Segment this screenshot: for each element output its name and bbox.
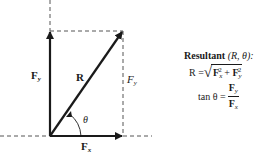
- tan-theta-formula: tan θ = Fy Fx: [198, 82, 239, 111]
- r-vector-label: R: [76, 72, 84, 83]
- theta-label: θ: [83, 115, 88, 125]
- resultant-title: Resultant (R, θ):: [184, 50, 254, 61]
- fraction: Fy Fx: [228, 82, 239, 111]
- fy-component-label: Fy: [127, 74, 137, 87]
- resultant-magnitude-formula: R = √ Fx2 + Fy2: [189, 64, 242, 80]
- theta-arc: [70, 114, 82, 136]
- fy-vector-label: Fy: [31, 70, 41, 83]
- fx-vector-label: Fx: [81, 141, 91, 154]
